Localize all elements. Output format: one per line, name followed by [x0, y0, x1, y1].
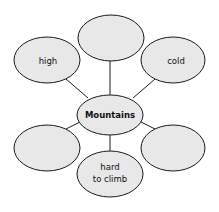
center-label: Mountains: [85, 110, 135, 120]
connector-top-right: [133, 79, 155, 98]
word-web-diagram: Mountains high cold hard to climb: [0, 0, 219, 212]
label-top-right: cold: [167, 56, 185, 66]
bubble-bottom-left: [14, 125, 80, 171]
bubble-bottom-right: [141, 125, 205, 171]
connector-top-left: [66, 79, 88, 98]
label-top-left: high: [39, 56, 58, 66]
label-bottom-line2: to climb: [93, 174, 127, 184]
bubble-top: [78, 15, 144, 61]
label-bottom-line1: hard: [100, 162, 119, 172]
